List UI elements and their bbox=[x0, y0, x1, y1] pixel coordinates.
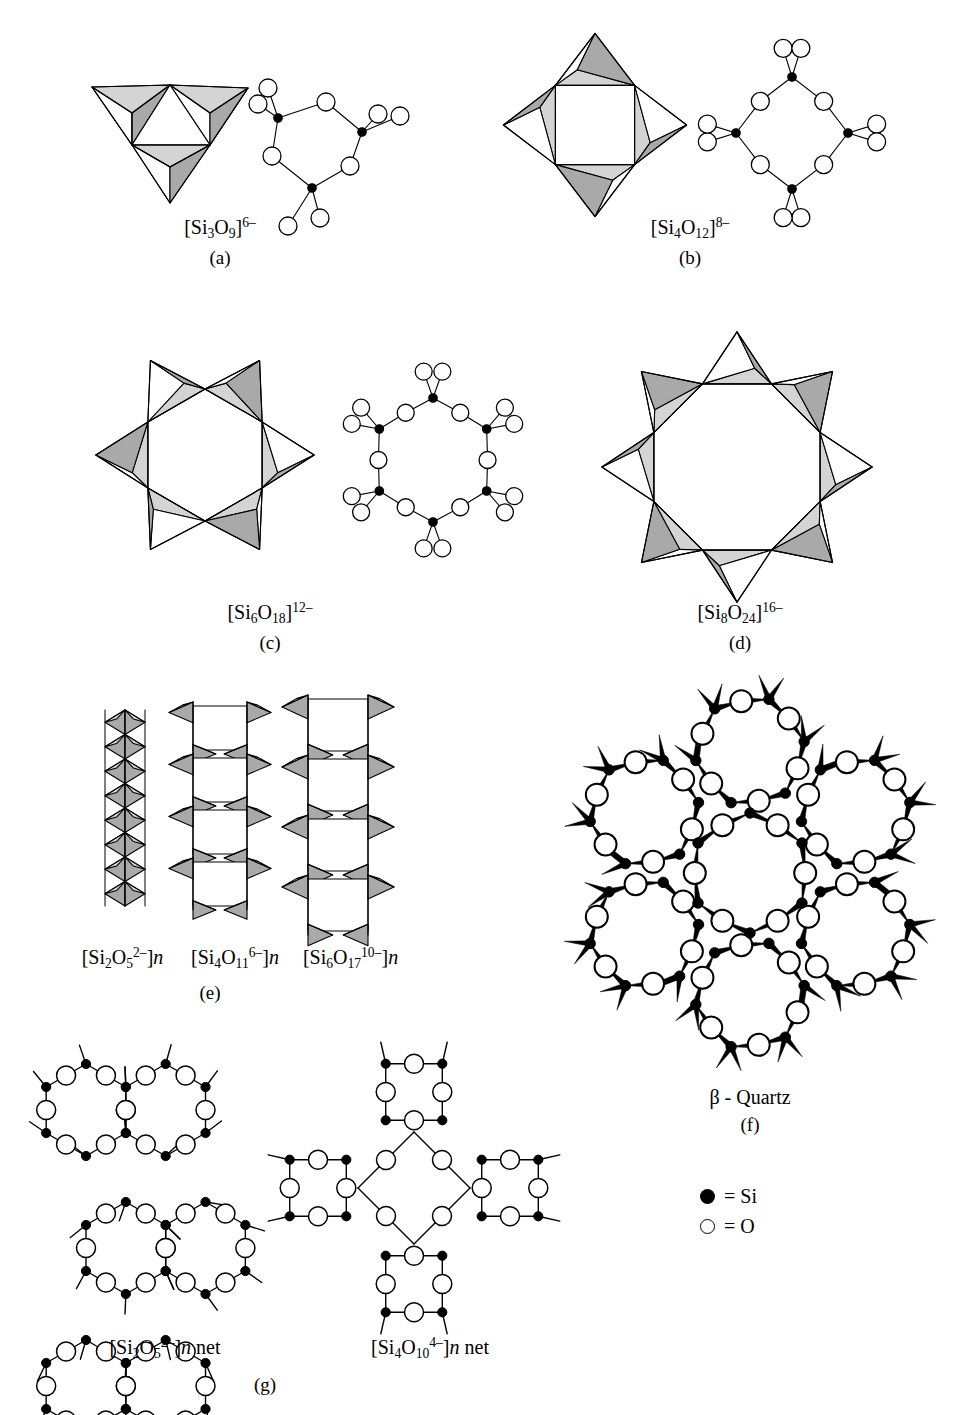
panel-b-ballstick bbox=[700, 45, 885, 215]
panel-b bbox=[495, 30, 705, 220]
panel-c-polyhedra bbox=[85, 330, 325, 580]
panel-g-hex-net-svg bbox=[20, 1040, 280, 1320]
panel-e-chain2-svg bbox=[165, 690, 275, 925]
panel-a-ballstick bbox=[250, 70, 430, 215]
legend-o-label: = O bbox=[724, 1215, 755, 1238]
o-dot-icon bbox=[700, 1219, 715, 1234]
panel-a-formula: [Si3O9]6– bbox=[90, 215, 350, 243]
panel-g-net-2 bbox=[292, 1060, 542, 1320]
panel-f-letter: (f) bbox=[625, 1113, 875, 1137]
panel-g-formula-1: [Si2O52–]n net bbox=[55, 1335, 275, 1363]
legend-row-o: = O bbox=[700, 1215, 757, 1238]
panel-a-caption: [Si3O9]6– (a) bbox=[90, 215, 350, 270]
panel-a-polyhedra bbox=[70, 55, 270, 205]
panel-a-letter: (a) bbox=[90, 246, 350, 270]
legend: = Si = O bbox=[700, 1185, 757, 1245]
panel-e-chain-3 bbox=[278, 685, 396, 930]
panel-d bbox=[595, 325, 880, 610]
panel-g-label-1: [Si2O52–]n net bbox=[55, 1335, 275, 1363]
panel-g-net-1 bbox=[20, 1040, 280, 1320]
panel-b-letter: (b) bbox=[560, 246, 820, 270]
panel-d-polyhedra bbox=[595, 325, 880, 610]
panel-g-formula-2: [Si4O104–]n net bbox=[320, 1335, 540, 1363]
panel-d-letter: (d) bbox=[610, 631, 870, 655]
panel-c bbox=[85, 330, 325, 580]
panel-c-letter: (c) bbox=[140, 631, 400, 655]
legend-row-si: = Si bbox=[700, 1185, 757, 1208]
panel-e-chain-2 bbox=[165, 690, 275, 925]
panel-e-letter-wrap: (e) bbox=[150, 978, 270, 1005]
panel-c-ballstick bbox=[325, 355, 545, 565]
panel-g-label-2: [Si4O104–]n net bbox=[320, 1335, 540, 1363]
panel-b-ballstick-svg bbox=[700, 45, 885, 215]
panel-d-formula: [Si8O24]16– bbox=[610, 600, 870, 628]
panel-c-caption: [Si6O18]12– (c) bbox=[140, 600, 400, 655]
panel-a bbox=[70, 55, 270, 205]
panel-g-letter: (g) bbox=[205, 1373, 325, 1397]
panel-g-letter-wrap: (g) bbox=[205, 1370, 325, 1397]
panel-e-letter: (e) bbox=[150, 981, 270, 1005]
panel-d-caption: [Si8O24]16– (d) bbox=[610, 600, 870, 655]
panel-e-chain3-svg bbox=[278, 685, 396, 930]
panel-f-quartz-net bbox=[545, 675, 955, 1075]
panel-b-caption: [Si4O12]8– (b) bbox=[560, 215, 820, 270]
panel-e-label-3: [Si6O1710–]n bbox=[268, 945, 433, 973]
panel-c-formula: [Si6O18]12– bbox=[140, 600, 400, 628]
si-dot-icon bbox=[700, 1189, 715, 1204]
panel-g-square-net-svg bbox=[292, 1060, 542, 1320]
panel-f-caption: β - Quartz (f) bbox=[625, 1085, 875, 1137]
panel-c-ballstick-svg bbox=[325, 355, 545, 565]
panel-e-formula-3: [Si6O1710–]n bbox=[268, 945, 433, 973]
panel-e-chain1-svg bbox=[95, 700, 155, 915]
panel-b-polyhedra bbox=[495, 30, 705, 220]
panel-a-ballstick-svg bbox=[250, 70, 430, 215]
panel-f-title: β - Quartz bbox=[625, 1085, 875, 1110]
legend-si-label: = Si bbox=[724, 1185, 757, 1208]
panel-f bbox=[545, 675, 955, 1075]
panel-e-chain-1 bbox=[95, 700, 155, 915]
panel-b-formula: [Si4O12]8– bbox=[560, 215, 820, 243]
